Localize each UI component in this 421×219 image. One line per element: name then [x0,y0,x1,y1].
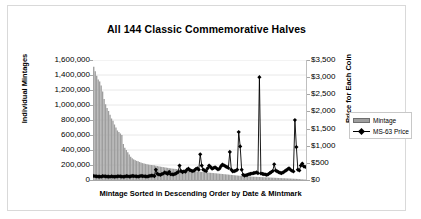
y-axis-right-tick-label: $1,000 [311,142,351,150]
y-axis-right-tick [307,129,310,130]
y-axis-right-tick [307,163,310,164]
x-axis-title: Mintage Sorted in Descending Order by Da… [68,189,333,198]
y-axis-left-tick-label: 400,000 [38,146,90,154]
y-axis-left-tick-label: 0 [38,176,90,184]
y-axis-left-tick-label: 200,000 [38,161,90,169]
y-axis-left-tick-label: 1,400,000 [38,71,90,79]
y-axis-left-tick-label: 800,000 [38,116,90,124]
y-axis-left-tick [90,135,93,136]
y-axis-right-tick [307,77,310,78]
legend-label-ms63-price: MS-63 Price [373,128,409,135]
legend-item-mintage[interactable]: Mintage [353,115,409,126]
y-axis-left-tick [90,105,93,106]
chart-container: All 144 Classic Commemorative Halves 020… [7,5,406,211]
y-axis-right-tick [307,94,310,95]
y-axis-left-tick-labels: 0200,000400,000600,000800,0001,000,0001,… [34,60,90,181]
y-axis-right-tick [307,60,310,61]
y-axis-right-tick-label: $500 [311,159,351,167]
mintage-bar-swatch-icon [353,118,370,123]
y-axis-left-tick [90,150,93,151]
y-axis-left-tick [90,75,93,76]
y-axis-left-tick-label: 600,000 [38,131,90,139]
ms63-line-marker-swatch-icon [353,128,370,135]
chart-canvas [93,60,306,180]
x-axis-line [93,180,307,181]
y-axis-left-tick-label: 1,600,000 [38,56,90,64]
y-axis-right-tick [307,146,310,147]
y-axis-left-tick [90,180,93,181]
y-axis-left-title: Individual Mintages [20,49,29,129]
plot-area [93,60,306,180]
y-axis-left-tick [90,60,93,61]
legend-label-mintage: Mintage [373,117,396,124]
y-axis-left-tick [90,120,93,121]
y-axis-left-tick [90,90,93,91]
chart-legend[interactable]: Mintage MS-63 Price [349,112,412,139]
y-axis-right-tick [307,180,310,181]
chart-title: All 144 Classic Commemorative Halves [8,23,405,35]
y-axis-right-tick [307,111,310,112]
legend-item-ms63-price[interactable]: MS-63 Price [353,126,409,137]
y-axis-left-tick-label: 1,200,000 [38,86,90,94]
y-axis-left-tick [90,165,93,166]
y-axis-left-tick-label: 1,000,000 [38,101,90,109]
y-axis-right-tick-label: $0 [311,176,351,184]
